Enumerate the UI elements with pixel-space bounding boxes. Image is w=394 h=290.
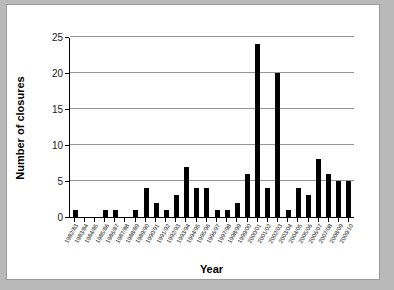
y-axis-tick-labels: 0510152025: [41, 38, 63, 218]
bar: [286, 210, 291, 217]
x-axis-tick-mark: [267, 218, 268, 222]
bar-slot: [253, 38, 263, 217]
bar-slot: [80, 38, 90, 217]
bar-slot: [121, 38, 131, 217]
x-axis-tick-mark: [247, 218, 248, 222]
y-axis-tick-label: 25: [43, 33, 63, 43]
bar: [73, 210, 78, 217]
x-axis-tick-mark: [308, 218, 309, 222]
bar-slot: [324, 38, 334, 217]
bar: [133, 210, 138, 217]
x-axis-tick-mark: [338, 218, 339, 222]
bar-slot: [232, 38, 242, 217]
gridline: [70, 36, 354, 37]
x-axis-tick-mark: [236, 218, 237, 222]
x-axis-tick-mark: [277, 218, 278, 222]
y-axis-tick-label: 10: [43, 141, 63, 151]
bar-slot: [344, 38, 354, 217]
bar: [306, 195, 311, 217]
bar-slot: [273, 38, 283, 217]
x-axis-tick-mark: [145, 218, 146, 222]
x-axis-tick-mark: [216, 218, 217, 222]
x-axis-title: Year: [69, 263, 354, 275]
bar-slot: [90, 38, 100, 217]
bar: [346, 181, 351, 217]
bar: [204, 188, 209, 217]
x-axis-tick-mark: [348, 218, 349, 222]
bar-slot: [303, 38, 313, 217]
bar-slot: [242, 38, 252, 217]
bar-slot: [141, 38, 151, 217]
bar: [245, 174, 250, 217]
x-axis-tick-mark: [165, 218, 166, 222]
x-axis-tick-mark: [155, 218, 156, 222]
bar: [275, 73, 280, 217]
y-axis-tick-label: 5: [43, 177, 63, 187]
x-label-slot: 2009/10: [344, 223, 354, 263]
bar: [144, 188, 149, 217]
bar: [296, 188, 301, 217]
bar: [113, 210, 118, 217]
bar: [225, 210, 230, 217]
bar-slot: [334, 38, 344, 217]
bar: [215, 210, 220, 217]
x-axis-tick-mark: [94, 218, 95, 222]
bar: [336, 181, 341, 217]
y-axis-title-text: Number of closures: [14, 76, 26, 179]
x-axis-tick-mark: [104, 218, 105, 222]
x-axis-tick-mark: [114, 218, 115, 222]
bar-slot: [192, 38, 202, 217]
bar: [164, 210, 169, 217]
x-axis-tick-mark: [257, 218, 258, 222]
bar-slot: [283, 38, 293, 217]
bar-slot: [263, 38, 273, 217]
bar: [316, 159, 321, 217]
bar: [184, 167, 189, 217]
x-axis-tick-mark: [124, 218, 125, 222]
bar: [235, 203, 240, 217]
y-axis-tick-label: 15: [43, 105, 63, 115]
bar: [154, 203, 159, 217]
x-axis-tick-mark: [175, 218, 176, 222]
x-axis-tick-mark: [185, 218, 186, 222]
x-axis-tick-labels: 1982/831983/841984/851985/861986/871987/…: [69, 223, 354, 263]
x-axis-tick-mark: [287, 218, 288, 222]
bar-series: [70, 38, 354, 217]
bar: [255, 44, 260, 217]
bar-slot: [293, 38, 303, 217]
y-axis-title: Number of closures: [13, 38, 27, 218]
bar: [103, 210, 108, 217]
bar-slot: [212, 38, 222, 217]
x-axis-tick-mark: [135, 218, 136, 222]
bar: [194, 188, 199, 217]
x-axis-tick-mark: [226, 218, 227, 222]
y-axis-tick-label: 20: [43, 69, 63, 79]
chart-figure-frame: Number of closures 0510152025 1982/83198…: [6, 4, 380, 280]
bar-slot: [100, 38, 110, 217]
bar-slot: [70, 38, 80, 217]
x-axis-tick-mark: [297, 218, 298, 222]
x-axis-tick-mark: [206, 218, 207, 222]
bar: [265, 188, 270, 217]
bar-slot: [131, 38, 141, 217]
bar-slot: [313, 38, 323, 217]
bar: [326, 174, 331, 217]
plot-area: [69, 38, 354, 218]
x-axis-tick-mark: [74, 218, 75, 222]
x-axis-tick-mark: [84, 218, 85, 222]
bar-slot: [222, 38, 232, 217]
x-axis-tick-mark: [196, 218, 197, 222]
bar-slot: [182, 38, 192, 217]
x-axis-tick-mark: [318, 218, 319, 222]
y-axis-tick-label: 0: [43, 213, 63, 223]
x-axis-tick-mark: [328, 218, 329, 222]
bar-slot: [202, 38, 212, 217]
bar: [174, 195, 179, 217]
bar-slot: [171, 38, 181, 217]
bar-slot: [161, 38, 171, 217]
bar-slot: [111, 38, 121, 217]
bar-slot: [151, 38, 161, 217]
